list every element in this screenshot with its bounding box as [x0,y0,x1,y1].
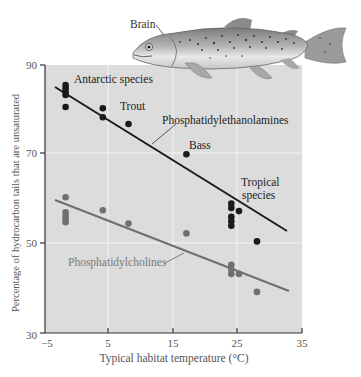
brain-label: Brain [130,18,156,30]
data-point [62,219,69,226]
data-point [62,92,69,99]
y-tick-30: 30 [26,329,38,341]
bass-label: Bass [189,139,211,151]
y-axis-label: Percentage of hydrocarbon tails that are… [10,93,21,312]
tropical-label-line1: Tropical [241,176,280,189]
pe-label: Phosphatidylethanolamines [162,114,289,127]
data-point [100,207,107,214]
data-point [62,104,69,111]
data-point [183,230,190,237]
data-point [228,205,235,212]
data-point [228,271,235,278]
data-point [100,114,107,121]
data-point [254,238,261,245]
antarctic-label: Antarctic species [74,73,153,86]
data-point [254,289,261,296]
data-point [183,151,190,158]
x-axis-label: Typical habitat temperature (°C) [99,352,248,365]
data-point [236,208,243,215]
y-tick-90: 90 [26,59,38,71]
data-point [125,220,132,227]
pc-label: Phosphatidylcholines [68,256,167,269]
data-point [228,223,235,230]
chart: 90 70 50 30 −5 5 15 25 35 Typical habita… [0,0,361,377]
x-tick-5: 5 [105,337,111,349]
data-point [62,194,69,201]
x-tick-25: 25 [232,337,244,349]
tropical-label-line2: species [242,189,276,202]
data-point [100,105,107,112]
y-tick-70: 70 [26,147,38,159]
trout-label: Trout [120,100,146,112]
x-tick-neg5: −5 [41,337,53,349]
data-point [236,271,243,278]
x-tick-35: 35 [297,337,309,349]
y-tick-50: 50 [26,237,38,249]
data-point [125,121,132,128]
x-tick-15: 15 [168,337,180,349]
